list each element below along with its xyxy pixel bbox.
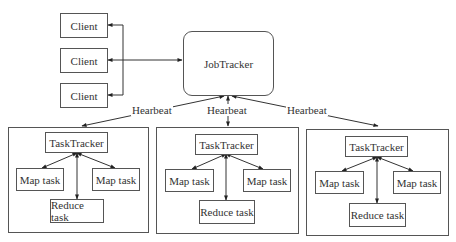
tasktracker-box-1: TaskTracker (45, 132, 108, 153)
jobtracker-box: JobTracker (183, 31, 274, 96)
map-task-box-3b: Map task (393, 171, 441, 194)
reduce-task-box-1: Reduce task (50, 199, 104, 223)
map-task-box-2b: Map task (243, 169, 291, 192)
map-task-label: Map task (20, 174, 61, 186)
reduce-task-box-2: Reduce task (199, 200, 255, 224)
client-box-1: Client (60, 13, 108, 38)
jobtracker-label: JobTracker (204, 58, 253, 70)
map-task-label: Map task (96, 174, 137, 186)
tasktracker-box-2: TaskTracker (195, 134, 258, 155)
heartbeat-label-right: Hearbeat (286, 104, 328, 116)
reduce-task-label: Reduce task (351, 209, 404, 221)
map-task-label: Map task (247, 175, 288, 187)
client-box-2: Client (60, 48, 108, 73)
heartbeat-label-middle: Hearbeat (206, 104, 248, 116)
client-label: Client (71, 90, 98, 102)
tasktracker-label: TaskTracker (199, 139, 253, 151)
client-box-3: Client (60, 83, 108, 108)
reduce-task-label: Reduce task (200, 206, 253, 218)
tasktracker-label: TaskTracker (49, 137, 103, 149)
tasktracker-label: TaskTracker (349, 141, 403, 153)
reduce-task-box-3: Reduce task (349, 203, 406, 227)
map-task-box-3a: Map task (315, 171, 364, 194)
map-task-box-2a: Map task (165, 169, 214, 192)
tasktracker-box-3: TaskTracker (345, 136, 408, 157)
map-task-label: Map task (319, 177, 360, 189)
client-label: Client (71, 55, 98, 67)
map-task-box-1b: Map task (92, 168, 140, 191)
map-task-label: Map task (397, 177, 438, 189)
map-task-label: Map task (169, 175, 210, 187)
client-label: Client (71, 20, 98, 32)
map-task-box-1a: Map task (16, 168, 64, 191)
heartbeat-label-left: Hearbeat (131, 104, 173, 116)
reduce-task-label: Reduce task (51, 199, 103, 223)
